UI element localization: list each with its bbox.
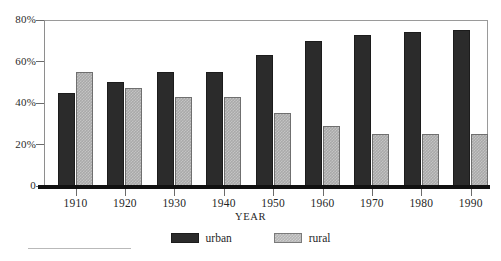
x-tick-1990: [471, 189, 472, 196]
x-tick-1980: [421, 189, 422, 196]
x-axis-label-1970: 1970: [348, 197, 396, 210]
bar-rural-1940: [224, 97, 241, 186]
x-axis-title: YEAR: [0, 211, 501, 223]
bar-rural-1990: [471, 134, 488, 186]
x-tick-1930: [174, 189, 175, 196]
bottom-rule-divider: [28, 248, 131, 249]
bar-urban-1910: [58, 93, 75, 186]
x-tick-1960: [323, 189, 324, 196]
urban-swatch-icon: [171, 233, 199, 243]
x-axis-label-1960: 1960: [299, 197, 347, 210]
bar-rural-1970: [372, 134, 389, 186]
bar-urban-1950: [256, 55, 273, 186]
chart-legend: urban rural: [0, 231, 501, 245]
x-axis-label-1980: 1980: [397, 197, 445, 210]
bar-urban-1960: [305, 41, 322, 186]
x-axis-label-1930: 1930: [150, 197, 198, 210]
bar-urban-1930: [157, 72, 174, 186]
rural-swatch-icon: [274, 233, 302, 243]
bar-rural-1920: [125, 88, 142, 186]
bar-urban-1920: [107, 82, 124, 186]
bar-rural-1930: [175, 97, 192, 186]
bar-chart-figure: 80% 60% 40% 20% 0 1910192019301940195019…: [0, 0, 501, 261]
bar-rural-1950: [274, 113, 291, 186]
bar-rural-1960: [323, 126, 340, 186]
bar-rural-1910: [76, 72, 93, 186]
x-axis-label-1940: 1940: [200, 197, 248, 210]
x-axis-label-1990: 1990: [447, 197, 495, 210]
legend-label-urban: urban: [206, 232, 232, 244]
x-axis-label-1950: 1950: [249, 197, 297, 210]
legend-item-rural: rural: [274, 232, 331, 244]
legend-label-rural: rural: [309, 232, 331, 244]
x-tick-1940: [224, 189, 225, 196]
bar-urban-1980: [404, 32, 421, 186]
legend-item-urban: urban: [171, 232, 232, 244]
x-tick-1910: [76, 189, 77, 196]
bar-urban-1970: [354, 35, 371, 186]
x-tick-1950: [273, 189, 274, 196]
bar-rural-1980: [422, 134, 439, 186]
bar-urban-1990: [453, 30, 470, 186]
x-axis-label-1910: 1910: [52, 197, 100, 210]
bar-urban-1940: [206, 72, 223, 186]
x-tick-1970: [372, 189, 373, 196]
x-axis-label-1920: 1920: [101, 197, 149, 210]
x-tick-1920: [125, 189, 126, 196]
